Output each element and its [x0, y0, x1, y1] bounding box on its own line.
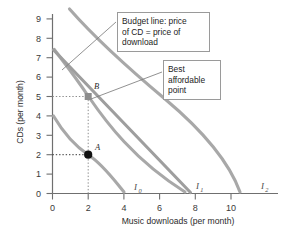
- x-tick-label-10: 10: [226, 203, 236, 213]
- curve-label-i1-base: I: [195, 181, 200, 191]
- y-tick-label-9: 9: [36, 14, 41, 24]
- y-tick-label-4: 4: [36, 111, 41, 121]
- y-tick-label-1: 1: [36, 169, 41, 179]
- y-axis-ticks: [47, 19, 53, 194]
- x-tick-label-2: 2: [86, 203, 91, 213]
- best-callout-line-2: affordable: [168, 75, 216, 86]
- x-tick-label-0: 0: [50, 203, 55, 213]
- y-tick-label-3: 3: [36, 131, 41, 141]
- x-tick-label-4: 4: [121, 203, 126, 213]
- budget-line-callout: Budget line: price of CD = price of down…: [117, 12, 210, 52]
- chart-figure: 0 1 2 3 4 5 6 7 8 9 0 2 4 6 8 10 CDs (pe…: [0, 0, 283, 232]
- data-point-a-marker: [84, 151, 92, 159]
- curve-label-i0: I 0: [133, 182, 143, 194]
- x-tick-label-8: 8: [193, 203, 198, 213]
- x-axis-ticks: [53, 194, 232, 200]
- best-callout-line-3: point: [168, 85, 216, 96]
- y-axis-title: CDs (per month): [15, 80, 25, 144]
- y-tick-label-5: 5: [36, 92, 41, 102]
- curve-label-i1-sub: 1: [200, 186, 203, 193]
- y-tick-label-0: 0: [36, 189, 41, 199]
- budget-callout-line-3: download: [122, 37, 205, 48]
- y-tick-label-7: 7: [36, 53, 41, 63]
- budget-callout-line-2: of CD = price of: [122, 27, 205, 38]
- data-point-a-label: A: [94, 142, 101, 152]
- data-point-b-label: B: [94, 81, 99, 91]
- curve-label-i2-sub: 2: [265, 186, 269, 193]
- y-tick-label-2: 2: [36, 150, 41, 160]
- x-axis-title: Music downloads (per month): [122, 216, 235, 226]
- curve-label-i2-base: I: [260, 181, 265, 191]
- best-callout-line-1: Best: [168, 64, 216, 75]
- data-point-b-marker: [85, 93, 92, 100]
- best-affordable-point-callout: Best affordable point: [163, 60, 221, 100]
- curve-label-i2: I 2: [260, 181, 269, 193]
- x-tick-label-6: 6: [157, 203, 162, 213]
- curve-label-i1: I 1: [195, 181, 203, 193]
- curve-label-i0-sub: 0: [139, 187, 143, 194]
- budget-callout-line-1: Budget line: price: [122, 16, 205, 27]
- y-tick-label-6: 6: [36, 72, 41, 82]
- curve-label-i0-base: I: [133, 182, 138, 192]
- y-tick-label-8: 8: [36, 34, 41, 44]
